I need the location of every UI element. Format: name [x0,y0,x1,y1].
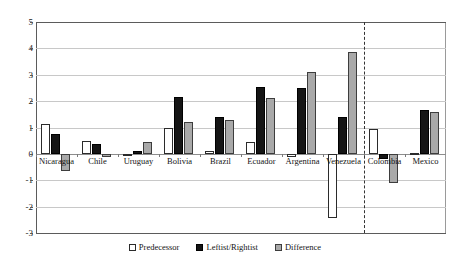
x-axis-label-mexico: Mexico [405,157,446,166]
bar-leftist-bolivia [174,97,184,154]
x-axis-label-venezuela: Venezuela [323,157,364,166]
y-tick-label: 1 [3,124,33,133]
bar-group-brazil [200,22,241,233]
legend-item-difference[interactable]: Difference [275,243,321,252]
bar-leftist-venezuela [338,117,348,154]
y-tick-label: 3 [3,71,33,80]
y-tick-mark [30,48,33,49]
legend-label: Predecessor [139,243,180,252]
y-tick-mark [30,22,33,23]
bar-leftist-argentina [297,88,307,154]
bar-difference-ecuador [266,98,276,153]
legend-label: Difference [285,243,321,252]
bar-group-ecuador [241,22,282,233]
y-tick-label: -2 [3,203,33,212]
bar-leftist-chile [92,144,102,154]
bar-group-bolivia [159,22,200,233]
y-tick-label: 5 [3,18,33,27]
y-tick-mark [30,180,33,181]
y-tick-label: 2 [3,97,33,106]
legend-item-predecessor[interactable]: Predecessor [129,243,180,252]
y-tick-mark [30,207,33,208]
bar-group-venezuela [323,22,364,233]
x-axis-label-nicaragua: Nicaragua [36,157,77,166]
y-tick-label: -1 [3,176,33,185]
x-axis-label-chile: Chile [77,157,118,166]
legend-swatch-icon [129,244,136,251]
bar-group-mexico [405,22,446,233]
bar-leftist-brazil [215,117,225,154]
bar-difference-brazil [225,120,235,154]
y-tick-label: 4 [3,44,33,53]
bar-group-colombia [364,22,405,233]
legend-label: Leftist/Rightist [206,243,257,252]
bar-group-uruguay [118,22,159,233]
bar-group-nicaragua [36,22,77,233]
chart-legend: PredecessorLeftist/RightistDifference [0,243,450,252]
x-axis-label-brazil: Brazil [200,157,241,166]
bar-predecessor-brazil [205,151,215,154]
bar-difference-venezuela [348,52,358,154]
bar-group-chile [77,22,118,233]
y-tick-mark [30,75,33,76]
x-axis-label-colombia: Colombia [364,157,405,166]
bar-difference-mexico [430,112,440,154]
bar-leftist-nicaragua [51,134,61,154]
legend-item-leftist[interactable]: Leftist/Rightist [196,243,257,252]
bar-chart: 543210-1-2-3 PredecessorLeftist/Rightist… [0,0,450,266]
bar-predecessor-mexico [410,153,420,155]
x-axis-label-ecuador: Ecuador [241,157,282,166]
x-axis-label-argentina: Argentina [282,157,323,166]
bar-leftist-ecuador [256,87,266,154]
bar-leftist-mexico [420,110,430,154]
y-tick-mark [30,101,33,102]
bar-predecessor-colombia [369,129,379,154]
plot-area [36,22,446,233]
bar-predecessor-nicaragua [41,124,51,154]
bar-leftist-uruguay [133,151,143,154]
y-tick-label: -3 [3,229,33,238]
x-axis-label-uruguay: Uruguay [118,157,159,166]
gridline--3 [36,233,446,234]
y-axis: 543210-1-2-3 [0,22,33,233]
y-tick-label: 0 [3,150,33,159]
legend-swatch-icon [275,244,282,251]
y-tick-mark [30,128,33,129]
bar-predecessor-ecuador [246,142,256,154]
y-tick-mark [30,233,33,234]
bar-predecessor-bolivia [164,128,174,154]
x-axis-label-bolivia: Bolivia [159,157,200,166]
y-tick-mark [30,154,33,155]
bar-difference-argentina [307,72,317,154]
bar-group-argentina [282,22,323,233]
bar-difference-bolivia [184,122,194,154]
legend-swatch-icon [196,244,203,251]
bar-difference-uruguay [143,142,153,154]
bar-predecessor-chile [82,141,92,154]
regime-divider-line [364,22,365,233]
